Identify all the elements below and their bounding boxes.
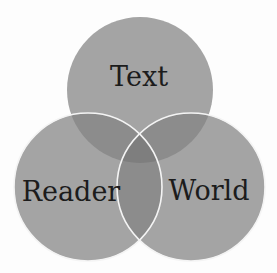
label-world: World <box>169 175 250 206</box>
label-reader: Reader <box>22 176 121 207</box>
venn-svg: Text Reader World <box>0 0 277 273</box>
label-text: Text <box>110 61 168 92</box>
venn-diagram: Text Reader World <box>0 0 277 273</box>
